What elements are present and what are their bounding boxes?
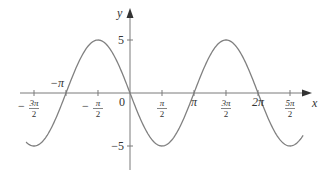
x-tick-label: 5π2 [285, 98, 295, 119]
x-tick-label: 3π2 [220, 98, 231, 119]
x-tick-label: −3π2 [18, 98, 39, 119]
x-axis-label: x [311, 96, 318, 110]
x-tick-label: π2 [157, 98, 167, 119]
svg-text:2: 2 [160, 109, 165, 119]
svg-text:2: 2 [96, 109, 101, 119]
svg-text:2: 2 [224, 109, 229, 119]
y-axis-arrow-icon [127, 8, 134, 18]
x-inline-label: 2π [252, 95, 265, 109]
y-axis-label: y [116, 6, 123, 20]
svg-text:3π: 3π [220, 98, 231, 108]
svg-text:−: − [18, 99, 25, 113]
svg-text:5π: 5π [285, 98, 295, 108]
x-tick-label: −π2 [82, 98, 103, 119]
x-inline-label: −π [50, 76, 65, 90]
origin-label: 0 [119, 95, 125, 109]
x-inline-label: π [191, 95, 198, 109]
sine-chart: −3π2−π2π23π25π2−ππ2π5−5 x y 0 [0, 0, 331, 176]
y-tick-label: 5 [118, 33, 124, 47]
svg-text:π: π [160, 98, 165, 108]
svg-text:−: − [82, 99, 89, 113]
x-axis-arrow-icon [302, 90, 312, 97]
svg-text:3π: 3π [29, 98, 40, 108]
svg-text:2: 2 [288, 109, 293, 119]
svg-text:2: 2 [32, 109, 37, 119]
svg-text:π: π [96, 98, 101, 108]
y-tick-label: −5 [111, 139, 124, 153]
